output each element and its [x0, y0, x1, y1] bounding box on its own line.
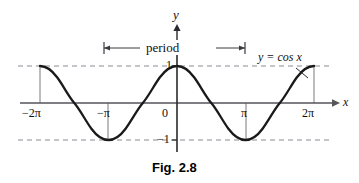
x-axis-label: x: [343, 96, 348, 108]
period-arrowhead-left: [104, 45, 110, 50]
y-tick-label-minus-1: −1: [157, 133, 170, 145]
y-axis-label: y: [173, 8, 179, 21]
cosine-plot-svg: [0, 0, 359, 183]
curve-equation-label: y = cos x: [258, 51, 302, 63]
x-tick-label-2pi: 2π: [302, 107, 314, 119]
figure-cosine-graph: y x period y = cos x 1 −1 0 −2π −π π 2π …: [0, 0, 359, 183]
x-tick-label-minus-2pi: −2π: [22, 107, 41, 119]
x-tick-label-pi: π: [241, 107, 247, 119]
figure-caption: Fig. 2.8: [152, 161, 197, 174]
origin-label: 0: [162, 107, 168, 119]
y-tick-label-1: 1: [166, 59, 172, 71]
x-axis-arrowhead: [332, 99, 340, 107]
period-arrowhead-right: [239, 45, 245, 50]
period-label: period: [146, 41, 179, 54]
y-axis-arrowhead: [173, 24, 180, 31]
x-tick-label-minus-pi: −π: [97, 107, 110, 119]
